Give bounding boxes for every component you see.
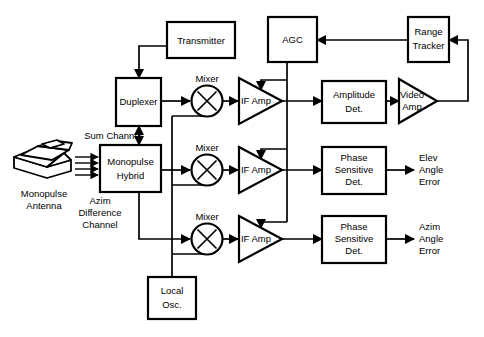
azim-difference-label-line2: Difference bbox=[78, 207, 121, 218]
phase-det-1-label-line2: Sensitive bbox=[335, 164, 374, 175]
wire-agc-to-ifamp2 bbox=[261, 149, 287, 159]
block-mixer-2[interactable]: Mixer bbox=[192, 142, 223, 186]
elev-error-line1: Elev bbox=[419, 152, 438, 163]
block-video-amp[interactable]: Video Amp bbox=[399, 79, 437, 123]
monopulse-hybrid-label-line2: Hybrid bbox=[117, 170, 144, 181]
if-amp-1-label: IF Amp bbox=[241, 95, 271, 106]
duplexer-label: Duplexer bbox=[119, 96, 157, 107]
phase-det-2-label-line3: Det. bbox=[345, 245, 362, 256]
wire-antenna-to-hybrid bbox=[75, 157, 98, 175]
block-range-tracker[interactable]: Range Tracker bbox=[408, 17, 449, 62]
range-tracker-label-line1: Range bbox=[415, 26, 443, 37]
block-phase-sensitive-detector-azim[interactable]: Phase Sensitive Det. bbox=[322, 216, 386, 263]
block-monopulse-hybrid[interactable]: Monopulse Hybrid bbox=[100, 145, 161, 192]
block-diagram-canvas: Transmitter Duplexer Monopulse Hybrid Lo… bbox=[0, 0, 484, 337]
phase-det-2-label-line2: Sensitive bbox=[335, 233, 374, 244]
wire-transmitter-to-duplexer bbox=[139, 46, 167, 78]
range-tracker-label-line2: Tracker bbox=[413, 40, 445, 51]
video-amp-label-line2: Amp bbox=[402, 101, 422, 112]
phase-det-1-label-line1: Phase bbox=[341, 152, 368, 163]
block-duplexer[interactable]: Duplexer bbox=[116, 78, 161, 126]
mixer-3-label: Mixer bbox=[195, 211, 218, 222]
elev-error-line2: Angle bbox=[419, 164, 443, 175]
azim-difference-label-line3: Channel bbox=[82, 219, 117, 230]
elev-error-line3: Error bbox=[419, 176, 440, 187]
phase-det-2-label-line1: Phase bbox=[341, 221, 368, 232]
azim-error-line1: Azim bbox=[419, 221, 440, 232]
monopulse-hybrid-label-line1: Monopulse bbox=[107, 156, 153, 167]
agc-label: AGC bbox=[282, 34, 303, 45]
output-azim-angle-error: Azim Angle Error bbox=[419, 221, 443, 256]
transmitter-label: Transmitter bbox=[177, 35, 225, 46]
mixer-2-label: Mixer bbox=[195, 142, 218, 153]
antenna-label-line1: Monopulse bbox=[21, 188, 67, 199]
wire-agc-to-ifamp3 bbox=[261, 222, 287, 228]
video-amp-label-line1: Video bbox=[400, 89, 424, 100]
output-elev-angle-error: Elev Angle Error bbox=[419, 152, 443, 187]
block-mixer-1[interactable]: Mixer bbox=[192, 73, 223, 117]
azim-difference-label-line1: Azim bbox=[89, 195, 110, 206]
azim-error-line2: Angle bbox=[419, 233, 443, 244]
mixer-1-label: Mixer bbox=[195, 73, 218, 84]
amplitude-det-label-line1: Amplitude bbox=[333, 89, 375, 100]
antenna-label-line2: Antenna bbox=[26, 200, 62, 211]
diagram-svg: Transmitter Duplexer Monopulse Hybrid Lo… bbox=[0, 0, 484, 337]
local-osc-label-line1: Local bbox=[161, 285, 184, 296]
monopulse-antenna-icon bbox=[14, 140, 72, 178]
block-agc[interactable]: AGC bbox=[268, 17, 317, 62]
azim-error-line3: Error bbox=[419, 245, 440, 256]
if-amp-3-label: IF Amp bbox=[241, 233, 271, 244]
sum-channel-label: Sum Channel bbox=[84, 130, 142, 141]
block-mixer-3[interactable]: Mixer bbox=[192, 211, 223, 255]
block-local-oscillator[interactable]: Local Osc. bbox=[148, 277, 196, 319]
block-phase-sensitive-detector-elev[interactable]: Phase Sensitive Det. bbox=[322, 147, 386, 194]
block-transmitter[interactable]: Transmitter bbox=[167, 22, 235, 58]
phase-det-1-label-line3: Det. bbox=[345, 176, 362, 187]
local-osc-label-line2: Osc. bbox=[162, 299, 182, 310]
wire-agc-to-ifamp1 bbox=[261, 80, 287, 90]
amplitude-det-label-line2: Det. bbox=[345, 103, 362, 114]
if-amp-2-label: IF Amp bbox=[241, 164, 271, 175]
wire-hybrid-to-mixer3 bbox=[139, 192, 190, 239]
block-amplitude-detector[interactable]: Amplitude Det. bbox=[322, 81, 386, 123]
